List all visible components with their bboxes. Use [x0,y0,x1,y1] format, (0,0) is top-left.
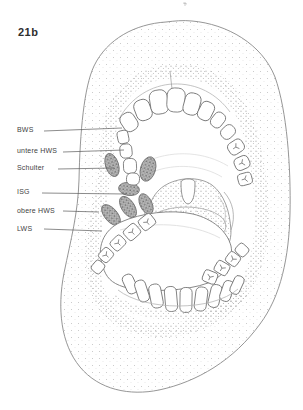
tooth-highlighted [123,158,137,173]
label-isg: ISG [17,188,30,196]
figure-21b: 21b BWS untere HWS Schulter ISG obere HW… [0,0,303,410]
label-lws: LWS [17,225,32,233]
label-obere-hws: obere HWS [17,207,55,215]
top-tick-mark [183,2,187,6]
tooth-highlighted [126,173,140,186]
mouth-illustration [0,0,303,410]
tooth [180,287,192,312]
tooth-highlighted [119,143,132,158]
figure-number: 21b [18,26,38,38]
label-untere-hws: untere HWS [17,147,57,155]
tooth [164,286,178,312]
tooth [194,286,209,311]
label-bws: BWS [17,126,34,134]
label-schulter: Schulter [17,164,44,172]
